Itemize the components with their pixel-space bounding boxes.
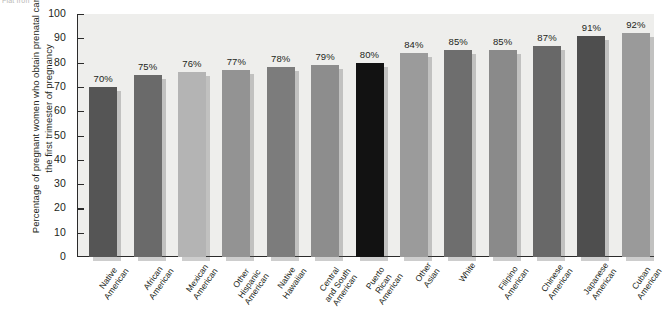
bar-group: 92%: [622, 14, 650, 257]
x-axis-tick-label: AfricanAmerican: [139, 261, 175, 301]
y-axis-tick-label: 60: [54, 104, 66, 116]
bars-layer: 70%75%76%77%78%79%80%84%85%85%87%91%92%: [77, 14, 654, 257]
bar[interactable]: [622, 33, 650, 257]
bar[interactable]: [311, 65, 339, 257]
x-axis-tick-label: CubanAmerican: [627, 261, 663, 301]
bar-value-label: 80%: [360, 49, 379, 60]
bar-group: 76%: [178, 14, 206, 257]
y-axis-tick-mark: [77, 184, 84, 185]
bar-group: 84%: [400, 14, 428, 257]
bar[interactable]: [356, 63, 384, 257]
x-axis-tick-label: ChineseAmerican: [538, 261, 574, 301]
bar-value-label: 78%: [271, 53, 290, 64]
y-axis-tick-label: 0: [60, 250, 66, 262]
x-axis-tick-label: NativeHawaiian: [273, 261, 309, 301]
y-axis-tick-label: 30: [54, 177, 66, 189]
x-axis-tick-label: OtherHispanicAmerican: [228, 261, 272, 307]
y-axis-tick-label: 40: [54, 153, 66, 165]
y-axis-tick-label: 70: [54, 80, 66, 92]
x-axis-labels: NativeAmericanAfricanAmericanMexicanAmer…: [77, 257, 654, 317]
x-axis-tick-label: PuertoRicanAmerican: [361, 261, 405, 307]
bar-group: 75%: [134, 14, 162, 257]
x-axis-tick-label: JapaneseAmerican: [582, 261, 619, 302]
bar-value-label: 77%: [227, 56, 246, 67]
x-axis-tick-label: NativeAmerican: [95, 261, 131, 301]
y-axis-title: Percentage of pregnant women who obtain …: [30, 0, 55, 234]
y-axis-tick-mark: [77, 160, 84, 161]
bar-group: 85%: [489, 14, 517, 257]
y-axis-tick-label: 90: [54, 31, 66, 43]
y-axis-tick-mark: [77, 87, 84, 88]
bar-value-label: 92%: [626, 19, 645, 30]
bar[interactable]: [577, 36, 605, 257]
y-axis-tick-mark: [77, 136, 84, 137]
bar[interactable]: [89, 87, 117, 257]
y-axis-tick-mark: [77, 14, 84, 15]
x-axis-tick-label-line: White: [458, 261, 478, 284]
bar-group: 80%: [356, 14, 384, 257]
bar-group: 91%: [577, 14, 605, 257]
bar-group: 77%: [222, 14, 250, 257]
bar[interactable]: [134, 75, 162, 257]
bar-value-label: 91%: [582, 22, 601, 33]
bar-group: 85%: [444, 14, 472, 257]
bar-group: 70%: [89, 14, 117, 257]
bar-group: 87%: [533, 14, 561, 257]
x-axis-tick-label: MexicanAmerican: [183, 261, 219, 301]
y-axis-tick-mark: [77, 63, 84, 64]
bar[interactable]: [267, 67, 295, 257]
bar[interactable]: [533, 46, 561, 257]
bar-value-label: 79%: [315, 51, 334, 62]
bar-value-label: 84%: [404, 39, 423, 50]
bar-value-label: 70%: [94, 73, 113, 84]
y-axis-tick-mark: [77, 111, 84, 112]
bar-value-label: 76%: [182, 58, 201, 69]
x-axis-tick-label: Centraland SouthAmerican: [315, 261, 361, 309]
y-axis-tick-label: 10: [54, 226, 66, 238]
bar[interactable]: [222, 70, 250, 257]
x-axis-tick-label: OtherAsian: [414, 261, 442, 289]
y-axis-tick-label: 20: [54, 201, 66, 213]
y-axis-tick-label: 50: [54, 129, 66, 141]
bar[interactable]: [489, 50, 517, 257]
bar[interactable]: [178, 72, 206, 257]
y-axis-tick-label: 80: [54, 56, 66, 68]
x-axis-tick-label: FilipinoAmerican: [494, 261, 530, 301]
bar-group: 78%: [267, 14, 295, 257]
bar-value-label: 85%: [449, 36, 468, 47]
y-axis-tick-mark: [77, 208, 84, 209]
bar[interactable]: [444, 50, 472, 257]
x-axis-tick-label: White: [458, 261, 478, 284]
bar-value-label: 85%: [493, 36, 512, 47]
bar[interactable]: [400, 53, 428, 257]
y-axis-tick-mark: [77, 38, 84, 39]
bar-group: 79%: [311, 14, 339, 257]
bar-value-label: 75%: [138, 61, 157, 72]
bar-value-label: 87%: [537, 32, 556, 43]
y-axis-tick-mark: [77, 233, 84, 234]
